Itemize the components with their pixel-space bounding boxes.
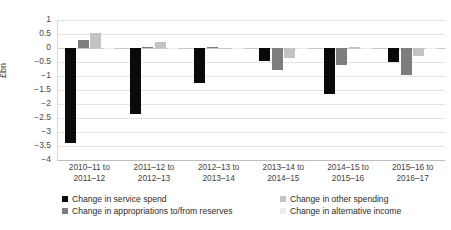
x-axis-tick-label-line: 2012–13 to [186, 162, 251, 173]
bar-group [316, 20, 381, 160]
legend-swatch-service-spend [62, 196, 68, 202]
legend-label-alternative-income: Change in alternative income [290, 206, 401, 216]
bar [167, 48, 178, 49]
y-axis-tick-label: 0.5 [18, 29, 51, 38]
x-axis-tick-label-line: 2014–15 to [316, 162, 381, 173]
y-axis-tick-labels: 10.50−0.5−1−1.5−2−2.5−3−3.5−4 [18, 0, 54, 230]
y-axis-tick-label: −3.5 [18, 141, 51, 150]
x-axis-tick-labels: 2010–11 to2011–122011–12 to2012–132012–1… [57, 162, 445, 192]
x-axis-tick-label-line: 2011–12 to [122, 162, 187, 173]
x-axis-tick-label: 2011–12 to2012–13 [122, 162, 187, 184]
legend-item-appropriations: Change in appropriations to/from reserve… [62, 206, 233, 216]
bar [207, 47, 218, 48]
bar-group [380, 20, 445, 160]
y-axis-tick-label: −1 [18, 71, 51, 80]
y-axis-title: £bn [0, 63, 8, 78]
bar [155, 42, 166, 48]
x-axis-tick-label-line: 2015–16 to [380, 162, 445, 173]
bar [388, 48, 399, 62]
x-axis-tick-label-line: 2011–12 [57, 173, 122, 184]
chart-legend: Change in service spend Change in approp… [62, 194, 446, 224]
bar [413, 48, 424, 56]
legend-label-appropriations: Change in appropriations to/from reserve… [72, 206, 233, 216]
x-axis-line [57, 160, 445, 161]
legend-label-service-spend: Change in service spend [72, 194, 167, 204]
x-axis-tick-label: 2014–15 to2015–16 [316, 162, 381, 184]
bar [103, 48, 114, 49]
x-axis-tick-label: 2013–14 to2014–15 [251, 162, 316, 184]
bar [90, 33, 101, 48]
legend-swatch-appropriations [62, 208, 68, 214]
bar [426, 48, 437, 49]
bar [272, 48, 283, 70]
x-axis-tick-label: 2010–11 to2011–12 [57, 162, 122, 184]
x-axis-tick-label-line: 2016–17 [380, 173, 445, 184]
bar [65, 48, 76, 143]
bar [361, 48, 372, 49]
y-axis-tick-label: −0.5 [18, 57, 51, 66]
y-axis-tick-label: −4 [18, 155, 51, 164]
bar [194, 48, 205, 83]
y-axis-tick-label: −2 [18, 99, 51, 108]
y-axis-tick-label: −1.5 [18, 85, 51, 94]
x-axis-tick-label-line: 2013–14 [186, 173, 251, 184]
bar [401, 48, 412, 75]
bar [130, 48, 141, 114]
x-axis-tick-label: 2012–13 to2013–14 [186, 162, 251, 184]
y-axis-tick-label: −2.5 [18, 113, 51, 122]
bar-group [251, 20, 316, 160]
bar [142, 47, 153, 48]
x-axis-tick-label-line: 2015–16 [316, 173, 381, 184]
bar [336, 48, 347, 65]
bar [284, 48, 295, 58]
y-axis-tick-label: 1 [18, 15, 51, 24]
x-axis-tick-label-line: 2013–14 to [251, 162, 316, 173]
x-axis-tick-label-line: 2010–11 to [57, 162, 122, 173]
bar [259, 48, 270, 61]
legend-item-other-spending: Change in other spending [280, 194, 388, 204]
legend-swatch-other-spending [280, 196, 286, 202]
legend-swatch-alternative-income [280, 208, 286, 214]
legend-item-service-spend: Change in service spend [62, 194, 167, 204]
y-axis-tick-label: 0 [18, 43, 51, 52]
x-axis-tick-label-line: 2014–15 [251, 173, 316, 184]
x-axis-tick-label-line: 2012–13 [122, 173, 187, 184]
bar-group [57, 20, 122, 160]
y-axis-tick-label: −3 [18, 127, 51, 136]
legend-label-other-spending: Change in other spending [290, 194, 388, 204]
bar [78, 40, 89, 48]
bar-chart: £bn 10.50−0.5−1−1.5−2−2.5−3−3.5−4 2010–1… [0, 0, 451, 230]
bar-group [186, 20, 251, 160]
bar-group [122, 20, 187, 160]
plot-area [57, 20, 445, 160]
legend-item-alternative-income: Change in alternative income [280, 206, 401, 216]
x-axis-tick-label: 2015–16 to2016–17 [380, 162, 445, 184]
bar [324, 48, 335, 94]
y-axis-line [57, 20, 58, 160]
bar [219, 48, 230, 49]
bar [349, 47, 360, 48]
bar [232, 48, 243, 49]
bar [297, 48, 308, 49]
